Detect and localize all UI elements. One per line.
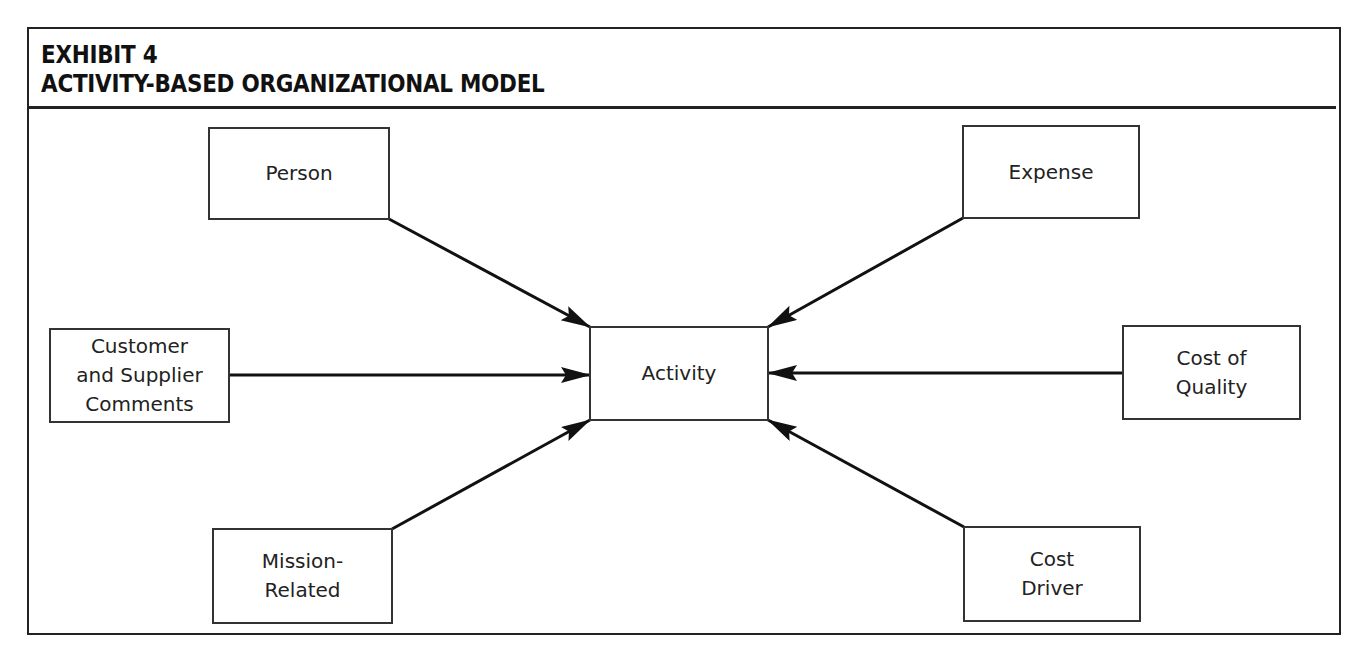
node-activity: Activity — [589, 326, 769, 421]
arrow-mission-to-activity — [392, 420, 590, 529]
arrow-expense-to-activity — [768, 218, 963, 327]
node-label: Person — [265, 159, 332, 188]
node-label: Expense — [1009, 158, 1094, 187]
node-cost-driver: Cost Driver — [963, 526, 1141, 622]
node-label: Cost of Quality — [1176, 344, 1247, 402]
node-label: Cost Driver — [1021, 545, 1083, 603]
arrow-person-to-activity — [389, 219, 590, 327]
arrow-cost-driver-to-activity — [768, 420, 964, 527]
node-cost-of-quality: Cost of Quality — [1122, 325, 1301, 420]
node-label: Mission- Related — [262, 547, 343, 605]
node-label: Activity — [642, 359, 717, 388]
node-expense: Expense — [962, 125, 1140, 219]
node-customer-and-supplier-comments: Customer and Supplier Comments — [49, 328, 230, 423]
node-mission-related: Mission- Related — [212, 528, 393, 624]
node-person: Person — [208, 127, 390, 220]
node-label: Customer and Supplier Comments — [76, 332, 202, 419]
